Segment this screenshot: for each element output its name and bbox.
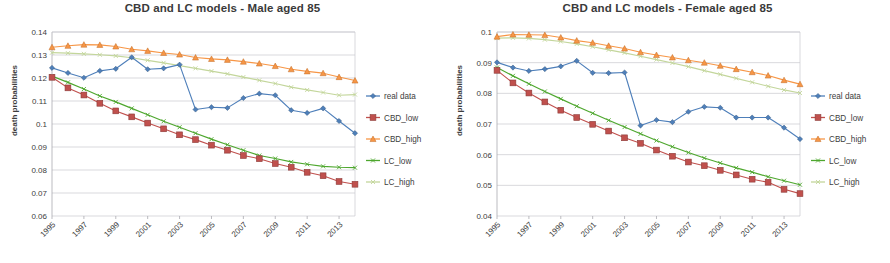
x-tick-label: 1997	[515, 220, 534, 239]
x-tick-label: 2001	[134, 220, 153, 239]
y-tick-label: 0.07	[31, 189, 47, 198]
y-tick-label: 0.08	[476, 89, 492, 98]
legend-item-cbd-low[interactable]: CBD_low	[811, 114, 863, 123]
legend-item-cbd-low[interactable]: CBD_low	[366, 114, 418, 123]
legend-label: CBD_high	[384, 135, 422, 144]
legend-label: real data	[384, 92, 416, 101]
y-tick-label: 0.11	[32, 97, 48, 106]
chart-svg-female: 0.040.050.060.070.080.090.11995199719992…	[445, 0, 890, 263]
legend-item-real-data[interactable]: real data	[366, 92, 416, 101]
x-tick-label: 2003	[166, 220, 185, 239]
x-tick-label: 2007	[230, 220, 249, 239]
y-tick-label: 0.09	[476, 59, 492, 68]
legend-item-lc-low[interactable]: LC_low	[811, 157, 856, 166]
legend-item-cbd-high[interactable]: CBD_high	[811, 135, 867, 144]
y-tick-label: 0.12	[31, 74, 47, 83]
x-tick-label: 1999	[547, 220, 566, 239]
legend-label: LC_high	[829, 178, 860, 187]
series-real-data	[49, 55, 357, 136]
y-tick-label: 0.04	[476, 212, 492, 221]
legend-label: LC_low	[384, 157, 411, 166]
x-tick-label: 2003	[611, 220, 630, 239]
legend-item-lc-high[interactable]: LC_high	[811, 178, 860, 187]
y-tick-label: 0.06	[31, 212, 47, 221]
x-tick-label: 2005	[198, 220, 217, 239]
chart-panel-male: CBD and LC models - Male aged 85 death p…	[0, 0, 445, 263]
y-tick-label: 0.14	[31, 28, 47, 37]
y-tick-label: 0.08	[31, 166, 47, 175]
legend-item-lc-low[interactable]: LC_low	[366, 157, 411, 166]
series-lc-low	[50, 74, 357, 170]
legend-item-cbd-high[interactable]: CBD_high	[366, 135, 422, 144]
y-tick-label: 0.13	[31, 51, 47, 60]
series-lc-high	[495, 36, 802, 95]
legend-item-lc-high[interactable]: LC_high	[366, 178, 415, 187]
legend-label: real data	[829, 92, 861, 101]
legend-item-real-data[interactable]: real data	[811, 92, 861, 101]
x-tick-label: 1999	[102, 220, 121, 239]
y-tick-label: 0.1	[481, 28, 493, 37]
legend-label: CBD_high	[829, 135, 867, 144]
y-tick-label: 0.06	[476, 151, 492, 160]
legend-label: LC_low	[829, 157, 856, 166]
x-tick-label: 2005	[643, 220, 662, 239]
x-tick-label: 2011	[294, 220, 313, 239]
charts-board: CBD and LC models - Male aged 85 death p…	[0, 0, 890, 263]
x-tick-label: 1995	[38, 220, 57, 239]
legend-label: CBD_low	[829, 114, 863, 123]
legend-label: LC_high	[384, 178, 415, 187]
x-tick-label: 2013	[326, 220, 345, 239]
y-tick-label: 0.07	[476, 120, 492, 129]
y-tick-label: 0.09	[31, 143, 47, 152]
y-tick-label: 0.05	[476, 181, 492, 190]
chart-panel-female: CBD and LC models - Female aged 85 death…	[445, 0, 890, 263]
legend-label: CBD_low	[384, 114, 418, 123]
x-tick-label: 2013	[771, 220, 790, 239]
x-tick-label: 2009	[707, 220, 726, 239]
x-tick-label: 1995	[483, 220, 502, 239]
y-tick-label: 0.1	[36, 120, 48, 129]
series-cbd-low	[494, 67, 803, 196]
x-tick-label: 1997	[70, 220, 89, 239]
x-tick-label: 2001	[579, 220, 598, 239]
series-cbd-high	[49, 42, 358, 83]
chart-svg-male: 0.060.070.080.090.10.110.120.130.1419951…	[0, 0, 445, 263]
x-tick-label: 2009	[262, 220, 281, 239]
x-tick-label: 2007	[675, 220, 694, 239]
x-tick-label: 2011	[739, 220, 758, 239]
